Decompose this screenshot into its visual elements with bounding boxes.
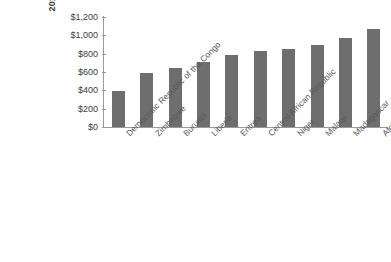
bar <box>367 29 380 127</box>
bar <box>169 68 182 127</box>
bar <box>225 55 238 127</box>
bar <box>112 91 125 127</box>
x-tick-label: Central African Republic <box>266 131 273 138</box>
bar <box>140 73 153 127</box>
y-tick-label: $600 <box>78 67 98 77</box>
y-tick-label: $800 <box>78 49 98 59</box>
y-tick-label: $1,200 <box>70 12 98 22</box>
x-tick-label: Afghanistan <box>380 131 387 138</box>
y-tick-label: $200 <box>78 104 98 114</box>
x-axis-line <box>103 127 388 128</box>
bar-chart: 2013 U.S. Dollars $1,200$1,000$800$600$4… <box>0 0 391 262</box>
bar <box>339 38 352 127</box>
y-tick-label: $400 <box>78 85 98 95</box>
x-tick-label: Zimbabwe <box>153 131 160 138</box>
x-tick-label: Liberia <box>209 131 216 138</box>
bar <box>311 45 324 127</box>
x-tick-label: Burundi <box>181 131 188 138</box>
x-tick-label: Democratic Republic of the Congo <box>124 131 131 138</box>
y-axis-tick-labels: $1,200$1,000$800$600$400$200$0 <box>58 12 102 128</box>
bar <box>197 62 210 127</box>
x-tick-label: Malawi <box>323 131 330 138</box>
plot-area <box>104 17 388 127</box>
y-tick-label: $0 <box>88 122 98 132</box>
bar <box>282 49 295 127</box>
x-tick-label: Eritrea <box>238 131 245 138</box>
x-tick-label: Madagascar <box>351 131 358 138</box>
y-tick-label: $1,000 <box>70 30 98 40</box>
bar <box>254 51 267 127</box>
x-tick-label: Niger <box>295 131 302 138</box>
